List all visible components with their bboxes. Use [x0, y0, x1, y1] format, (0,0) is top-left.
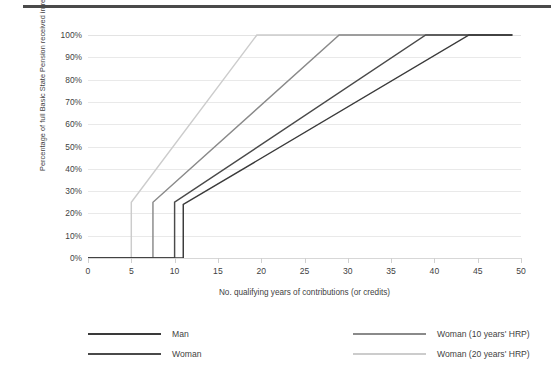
x-tick-mark: [175, 258, 176, 263]
y-tick-label: 50%: [42, 142, 82, 152]
x-tick-mark: [391, 258, 392, 263]
x-tick-mark: [261, 258, 262, 263]
y-tick-label: 60%: [42, 119, 82, 129]
y-tick-label: 80%: [42, 75, 82, 85]
y-tick-label: 30%: [42, 186, 82, 196]
x-tick-label: 35: [386, 266, 396, 276]
plot-area: [88, 35, 521, 258]
x-tick-label: 25: [300, 266, 310, 276]
series-line: [88, 35, 512, 258]
legend-line-swatch: [353, 333, 426, 335]
x-tick-mark: [305, 258, 306, 263]
y-axis-tick-labels: 0%10%20%30%40%50%60%70%80%90%100%: [38, 35, 82, 258]
x-tick-label: 0: [86, 266, 91, 276]
series-line: [88, 35, 512, 258]
x-tick-label: 30: [343, 266, 353, 276]
x-tick-mark: [88, 258, 89, 263]
y-tick-label: 10%: [42, 231, 82, 241]
x-axis-title: No. qualifying years of contributions (o…: [88, 288, 521, 297]
x-tick-mark: [131, 258, 132, 263]
legend-line-swatch: [88, 353, 161, 355]
x-tick-mark: [434, 258, 435, 263]
y-tick-label: 20%: [42, 208, 82, 218]
x-tick-label: 50: [516, 266, 526, 276]
chart-legend: ManWomanWoman (10 years' HRP)Woman (20 y…: [0, 326, 551, 370]
legend-label: Woman: [172, 346, 201, 362]
x-tick-mark: [348, 258, 349, 263]
x-tick-label: 45: [473, 266, 483, 276]
x-tick-mark: [521, 258, 522, 263]
legend-label: Man: [172, 326, 189, 342]
legend-line-swatch: [88, 333, 161, 335]
x-tick-label: 20: [256, 266, 266, 276]
legend-label: Woman (20 years' HRP): [437, 346, 530, 362]
x-tick-label: 15: [213, 266, 223, 276]
top-divider-rule: [23, 5, 551, 8]
x-tick-mark: [218, 258, 219, 263]
y-tick-label: 0%: [42, 253, 82, 263]
series-line: [88, 35, 512, 258]
y-tick-label: 100%: [42, 30, 82, 40]
legend-line-swatch: [353, 353, 426, 355]
x-tick-label: 40: [430, 266, 440, 276]
series-canvas: [88, 35, 521, 258]
legend-label: Woman (10 years' HRP): [437, 326, 530, 342]
x-tick-label: 5: [129, 266, 134, 276]
y-tick-label: 70%: [42, 97, 82, 107]
y-tick-label: 40%: [42, 164, 82, 174]
x-tick-label: 10: [170, 266, 180, 276]
chart-page: Percentage of full Basic State Pension r…: [0, 0, 551, 374]
y-tick-label: 90%: [42, 52, 82, 62]
x-tick-mark: [478, 258, 479, 263]
series-line: [88, 35, 512, 258]
